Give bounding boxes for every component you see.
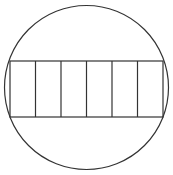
- circle-rectangle-diagram: [0, 0, 173, 175]
- section-dividers: [36, 61, 138, 117]
